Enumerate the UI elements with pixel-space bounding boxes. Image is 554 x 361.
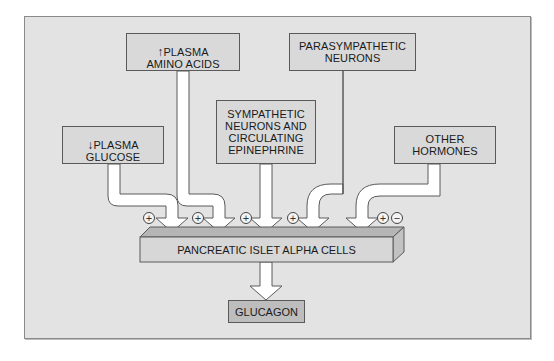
box-parasympathetic-neurons: PARASYMPATHETIC NEURONS — [289, 33, 416, 71]
box-glucagon: GLUCAGON — [228, 300, 305, 323]
label-pancreatic-islet-alpha-cells: PANCREATIC ISLET ALPHA CELLS — [140, 237, 393, 262]
label-sympathetic-neurons: SYMPATHETIC NEURONS AND CIRCULATING EPIN… — [225, 108, 307, 156]
minus-sign-icon: − — [391, 212, 403, 224]
plus-sign-icon: + — [377, 212, 389, 224]
islet-bar-top — [140, 227, 404, 237]
label-glucagon: GLUCAGON — [235, 306, 298, 318]
plus-sign-icon: + — [240, 212, 252, 224]
box-sympathetic-neurons: SYMPATHETIC NEURONS AND CIRCULATING EPIN… — [216, 100, 316, 164]
label-plasma-glucose: PLASMA GLUCOSE — [86, 139, 141, 163]
box-other-hormones: OTHER HORMONES — [394, 126, 496, 164]
plus-sign-icon: + — [143, 212, 155, 224]
arrow-from-sympathetic — [250, 164, 282, 232]
box-plasma-glucose: ↓PLASMA GLUCOSE — [62, 126, 164, 164]
plus-sign-icon: + — [192, 212, 204, 224]
label-other-hormones: OTHER HORMONES — [412, 133, 478, 157]
diagram-canvas: ↑PLASMA AMINO ACIDS PARASYMPATHETIC NEUR… — [0, 0, 554, 361]
plus-sign-icon: + — [287, 212, 299, 224]
label-parasympathetic-neurons: PARASYMPATHETIC NEURONS — [299, 40, 406, 64]
arrow-to-glucagon — [250, 262, 282, 300]
box-plasma-amino-acids: ↑PLASMA AMINO ACIDS — [126, 33, 240, 71]
